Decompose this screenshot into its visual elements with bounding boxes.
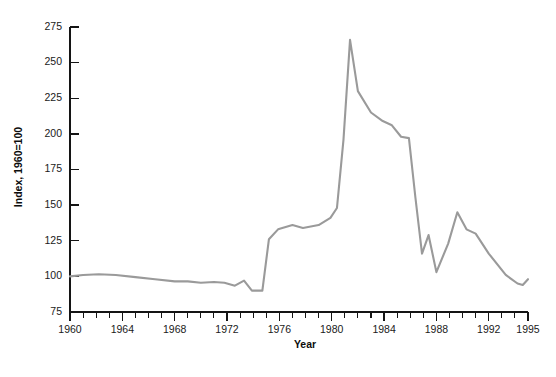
x-tick-label: 1984	[372, 323, 396, 335]
y-tick-label: 125	[44, 234, 62, 246]
x-tick-label: 1968	[163, 323, 187, 335]
y-tick-label: 175	[44, 162, 62, 174]
y-tick-label: 200	[44, 127, 62, 139]
x-tick-label: 1972	[215, 323, 239, 335]
y-axis-tick-labels: 75100125150175200225250275	[44, 20, 62, 317]
x-axis-ticks	[70, 312, 528, 321]
x-tick-label: 1976	[268, 323, 292, 335]
y-axis-ticks	[70, 27, 79, 312]
y-tick-label: 150	[44, 198, 62, 210]
x-tick-label: 1992	[477, 323, 501, 335]
x-axis-title: Year	[294, 338, 316, 350]
y-tick-label: 275	[44, 20, 62, 32]
line-chart: 75100125150175200225250275 1960196419681…	[0, 0, 556, 377]
x-tick-label: 1960	[58, 323, 82, 335]
x-tick-label: 1988	[425, 323, 449, 335]
axis-spine	[70, 27, 528, 312]
y-axis-title: Index, 1960=100	[12, 127, 24, 207]
x-tick-label: 1995	[516, 323, 540, 335]
x-tick-label: 1964	[111, 323, 135, 335]
y-tick-label: 225	[44, 91, 62, 103]
y-tick-label: 75	[50, 305, 62, 317]
axis-lines	[70, 27, 528, 312]
x-tick-label: 1980	[320, 323, 344, 335]
y-tick-label: 100	[44, 269, 62, 281]
y-tick-label: 250	[44, 55, 62, 67]
x-axis-tick-labels: 1960196419681972197619801984198819921995	[58, 323, 540, 335]
chart-container: 75100125150175200225250275 1960196419681…	[0, 0, 556, 377]
data-series-line	[70, 40, 528, 291]
data-series-layer	[70, 40, 528, 291]
